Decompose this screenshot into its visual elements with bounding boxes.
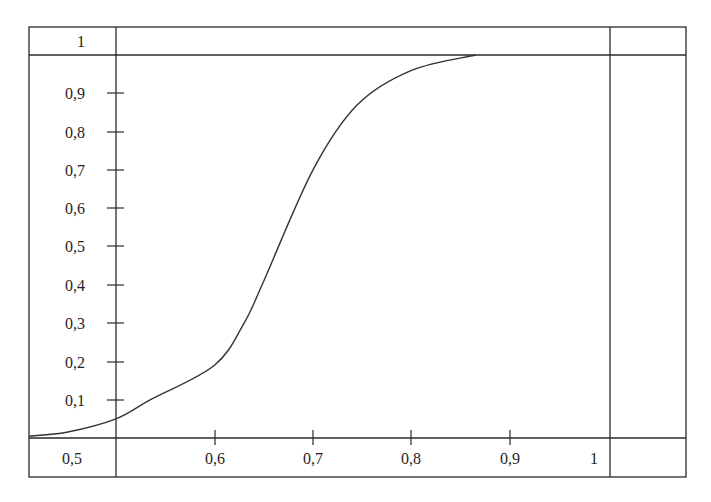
y-labels: 1 0,9 0,8 0,7 0,6 0,5 0,4 0,3 0,2 0,1 bbox=[65, 33, 85, 409]
y-label-0.2: 0,2 bbox=[65, 354, 85, 371]
y-label-0.8: 0,8 bbox=[65, 124, 85, 141]
chart-frame bbox=[29, 27, 686, 477]
s-curve-line bbox=[29, 55, 475, 436]
chart: 1 0,9 0,8 0,7 0,6 0,5 0,4 0,3 0,2 0,1 0,… bbox=[0, 0, 711, 502]
x-label-1: 1 bbox=[590, 450, 598, 467]
x-label-0.9: 0,9 bbox=[500, 450, 520, 467]
y-label-1: 1 bbox=[77, 33, 85, 50]
y-label-0.5: 0,5 bbox=[65, 238, 85, 255]
y-label-0.4: 0,4 bbox=[65, 277, 85, 294]
x-label-0.5: 0,5 bbox=[62, 450, 82, 467]
x-label-0.6: 0,6 bbox=[205, 450, 225, 467]
y-label-0.1: 0,1 bbox=[65, 392, 85, 409]
y-label-0.9: 0,9 bbox=[65, 85, 85, 102]
x-labels: 0,5 0,6 0,7 0,8 0,9 1 bbox=[62, 450, 598, 467]
x-label-0.8: 0,8 bbox=[401, 450, 421, 467]
y-label-0.7: 0,7 bbox=[65, 162, 85, 179]
y-label-0.6: 0,6 bbox=[65, 200, 85, 217]
y-label-0.3: 0,3 bbox=[65, 315, 85, 332]
x-label-0.7: 0,7 bbox=[303, 450, 323, 467]
